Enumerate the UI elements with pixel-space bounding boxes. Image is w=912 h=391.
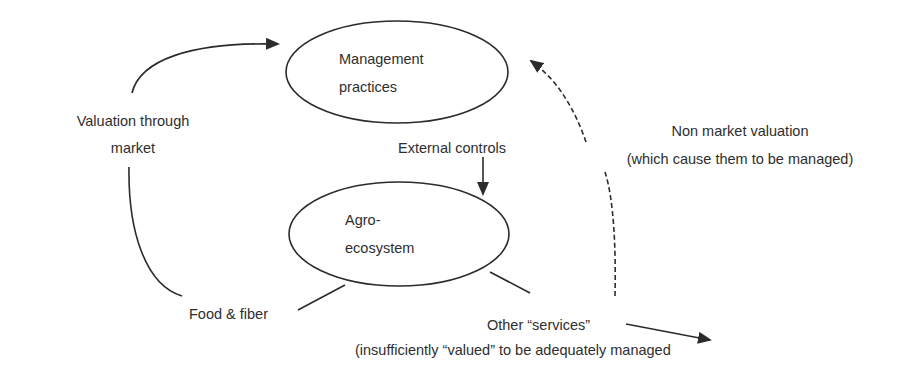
other-services-label-line1: Other “services” (487, 311, 590, 339)
food-fiber-curve (129, 167, 182, 296)
food-fiber-label: Food & fiber (189, 300, 268, 328)
valuation-market-label-line1: Valuation through (48, 107, 218, 135)
agro-to-food-line (298, 285, 345, 310)
valuation-market-label-line2: market (48, 134, 218, 162)
agro-label-line1: Agro- (345, 206, 380, 234)
diagram-shapes (0, 0, 912, 391)
diagram-canvas: Management practices Agro- ecosystem Val… (0, 0, 912, 391)
agro-to-services-line (490, 272, 530, 293)
market-valuation-arrow (132, 44, 278, 93)
management-label-line2: practices (339, 73, 397, 101)
non-market-dashed-arrow (531, 61, 586, 142)
non-market-label-line2: (which cause them to be managed) (590, 145, 890, 173)
other-services-label-line2: (insufficiently “valued” to be adequatel… (355, 336, 671, 364)
agro-label-line2: ecosystem (345, 234, 414, 262)
external-controls-label: External controls (398, 134, 506, 162)
non-market-label-line1: Non market valuation (590, 117, 890, 145)
management-label-line1: Management (339, 45, 424, 73)
non-market-dashed-lower (605, 172, 615, 296)
